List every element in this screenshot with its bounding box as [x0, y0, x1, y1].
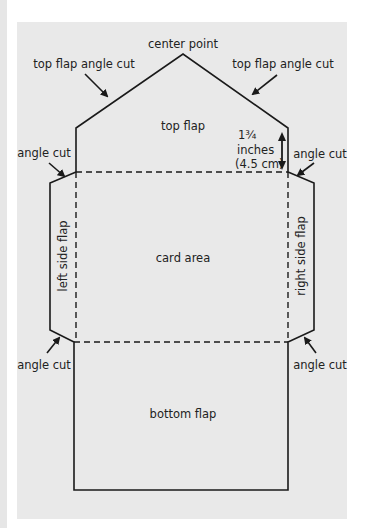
top-flap-angle-cut-right-label: top flap angle cut — [232, 57, 334, 71]
top-flap-angle-cut-left-label: top flap angle cut — [33, 57, 135, 71]
card-area-label: card area — [156, 251, 211, 265]
arrow-angle-cut-lower-left-icon — [47, 338, 59, 353]
angle-cut-upper-right-label: angle cut — [293, 147, 347, 161]
measurement-inches: inches — [237, 143, 274, 157]
top-flap-label: top flap — [161, 119, 205, 133]
center-point-label: center point — [148, 37, 218, 51]
arrow-top-flap-angle-cut-right-icon — [253, 75, 277, 94]
right-side-flap-label: right side flap — [294, 216, 308, 295]
arrow-top-flap-angle-cut-left-icon — [85, 74, 107, 96]
measurement-fraction: 1¾ — [238, 128, 256, 142]
angle-cut-lower-right-label: angle cut — [293, 358, 347, 372]
arrow-angle-cut-lower-right-icon — [305, 338, 316, 353]
arrow-angle-cut-upper-left-icon — [49, 163, 64, 176]
bottom-flap-label: bottom flap — [150, 407, 217, 421]
measurement-cm: (4.5 cm) — [235, 157, 283, 171]
angle-cut-upper-left-label: angle cut — [17, 146, 71, 160]
envelope-template-diagram: center point top flap angle cut top flap… — [0, 0, 366, 528]
arrow-angle-cut-upper-right-icon — [298, 163, 314, 175]
pointer-arrows — [47, 74, 316, 353]
angle-cut-lower-left-label: angle cut — [17, 358, 71, 372]
left-side-flap-label: left side flap — [56, 220, 70, 291]
